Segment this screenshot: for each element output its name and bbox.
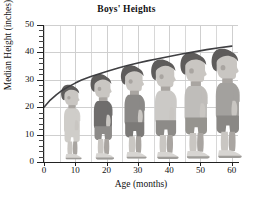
x-axis-label: Age (months)	[44, 179, 238, 189]
x-tick-label: 20	[95, 165, 119, 175]
y-tick-label: 50	[12, 19, 34, 29]
y-tick-minor	[39, 151, 44, 152]
x-tick-label: 0	[32, 165, 56, 175]
y-tick-label: 0	[12, 156, 34, 166]
x-axis-line	[43, 162, 239, 163]
y-tick-minor	[39, 63, 44, 64]
y-tick-minor	[39, 47, 44, 48]
y-tick-major	[37, 80, 44, 81]
y-tick-minor	[39, 91, 44, 92]
y-tick-major	[37, 52, 44, 53]
x-tick-label: 10	[63, 165, 87, 175]
y-tick-minor	[39, 41, 44, 42]
y-tick-major	[37, 135, 44, 136]
y-tick-minor	[39, 118, 44, 119]
y-tick-major	[37, 25, 44, 26]
y-tick-minor	[39, 96, 44, 97]
y-tick-minor	[39, 146, 44, 147]
median-height-curve	[44, 25, 240, 163]
y-tick-minor	[39, 140, 44, 141]
y-tick-minor	[39, 129, 44, 130]
y-axis-line	[43, 25, 44, 163]
y-tick-minor	[39, 85, 44, 86]
y-tick-minor	[39, 113, 44, 114]
y-tick-label: 30	[12, 74, 34, 84]
y-tick-label: 40	[12, 46, 34, 56]
x-tick-label: 60	[220, 165, 244, 175]
y-tick-minor	[39, 69, 44, 70]
y-tick-minor	[39, 102, 44, 103]
chart-title: Boys' Heights	[0, 4, 253, 14]
y-tick-label: 10	[12, 129, 34, 139]
y-tick-minor	[39, 74, 44, 75]
y-tick-major	[37, 107, 44, 108]
y-tick-minor	[39, 36, 44, 37]
y-tick-label: 20	[12, 101, 34, 111]
y-tick-minor	[39, 157, 44, 158]
y-tick-minor	[39, 124, 44, 125]
x-tick-label: 50	[188, 165, 212, 175]
y-tick-minor	[39, 30, 44, 31]
chart-figure: Boys' Heights Median Height (inches) Age…	[0, 0, 253, 198]
curve-path	[44, 46, 232, 107]
x-tick-label: 40	[157, 165, 181, 175]
x-tick-label: 30	[126, 165, 150, 175]
y-tick-major	[37, 162, 44, 163]
y-tick-minor	[39, 58, 44, 59]
